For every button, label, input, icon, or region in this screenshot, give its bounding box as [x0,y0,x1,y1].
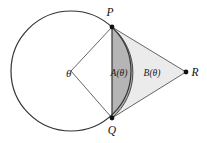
region-b-label: B(θ) [144,68,161,79]
radius-oq-line [71,71,112,118]
region-a-label: A(θ) [110,68,128,79]
point-q-label: Q [108,124,117,136]
geometry-figure: P Q R θ A(θ) B(θ) [0,0,207,143]
point-r-label: R [190,66,198,78]
figure-canvas: P Q R θ A(θ) B(θ) [0,0,207,143]
radius-op-line [71,27,112,71]
angle-theta-label: θ [66,67,72,79]
point-p-label: P [105,6,113,18]
point-p-dot [110,25,115,30]
point-q-dot [110,116,115,121]
point-r-dot [184,70,189,75]
